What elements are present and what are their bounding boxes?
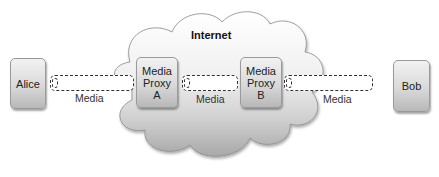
alice-node: Alice — [10, 58, 46, 109]
media-proxy-diagram: Internet Media Media Media Alice Media P… — [0, 0, 439, 177]
media-label-2: Media — [196, 93, 225, 105]
media-proxy-b-node: Media Proxy B — [240, 57, 282, 108]
tube-end-cap-icon — [52, 78, 58, 88]
media-label-1: Media — [75, 92, 104, 104]
media-proxy-a-node: Media Proxy A — [136, 57, 178, 108]
proxy-b-line3: B — [257, 89, 264, 101]
media-label-3: Media — [323, 93, 352, 105]
tube-end-cap-icon — [184, 78, 190, 88]
internet-label: Internet — [191, 29, 231, 41]
alice-label: Alice — [16, 78, 40, 90]
proxy-b-line2: Proxy — [247, 77, 275, 89]
media-link-alice-proxy-a — [50, 75, 134, 91]
media-link-proxy-a-proxy-b — [182, 75, 238, 91]
tube-end-cap-icon — [286, 78, 292, 88]
bob-label: Bob — [402, 80, 422, 92]
proxy-a-line2: Proxy — [143, 77, 171, 89]
bob-node: Bob — [393, 60, 430, 112]
proxy-a-line1: Media — [142, 65, 172, 77]
proxy-a-line3: A — [153, 89, 160, 101]
media-link-proxy-b-bob — [284, 75, 373, 91]
proxy-b-line1: Media — [246, 65, 276, 77]
